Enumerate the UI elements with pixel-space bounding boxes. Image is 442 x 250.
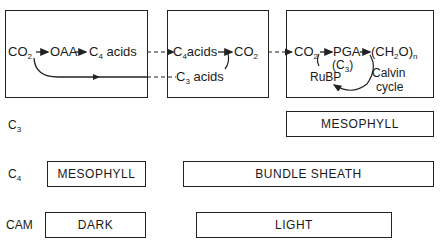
ch2o-label: (CH2O)n <box>371 45 417 61</box>
cycle-label: cycle <box>376 81 403 93</box>
label-text: C <box>8 167 17 181</box>
co2-text: CO <box>8 44 28 59</box>
c4-text: C <box>89 44 98 59</box>
c4-acids-label-2: C4acids <box>173 45 217 61</box>
co2-label: CO2 <box>8 45 32 61</box>
co2-label-3: CO2 <box>294 45 318 61</box>
subscript: 2 <box>28 52 32 61</box>
c3-text: C <box>176 69 185 84</box>
row-label-cam: CAM <box>6 218 33 232</box>
pga-label: PGA <box>333 45 360 58</box>
subscript: 4 <box>17 174 21 183</box>
c4-mesophyll-bar: MESOPHYLL <box>47 161 146 187</box>
co2-text: CO <box>294 44 314 59</box>
cam-light-bar: LIGHT <box>196 212 392 238</box>
subscript: 2 <box>254 52 258 61</box>
o-text: O) <box>399 44 413 59</box>
c3-mesophyll-bar: MESOPHYLL <box>286 111 434 137</box>
ch-text: (CH <box>371 44 394 59</box>
acids-text: acids <box>187 44 217 59</box>
paren-close: ) <box>349 58 353 72</box>
c4-bundle-sheath-bar: BUNDLE SHEATH <box>183 161 434 187</box>
cam-dark-bar: DARK <box>45 212 146 238</box>
acids-text: acids <box>190 69 224 84</box>
c3-acids-label: C3 acids <box>176 70 224 86</box>
subscript: 2 <box>314 52 318 61</box>
subscript-n: n <box>413 52 417 61</box>
row-label-c3: C3 <box>8 118 21 134</box>
subscript: 3 <box>17 125 21 134</box>
calvin-label: Calvin <box>372 67 405 79</box>
c4-text: C <box>173 44 182 59</box>
rubp-label: RuBP <box>310 71 341 83</box>
label-text: C <box>8 118 17 132</box>
acids-text: acids <box>103 44 137 59</box>
oaa-label: OAA <box>50 45 77 58</box>
row-label-c4: C4 <box>8 167 21 183</box>
c4-acids-label: C4 acids <box>89 45 137 61</box>
co2-label-2: CO2 <box>234 45 258 61</box>
co2-text: CO <box>234 44 254 59</box>
